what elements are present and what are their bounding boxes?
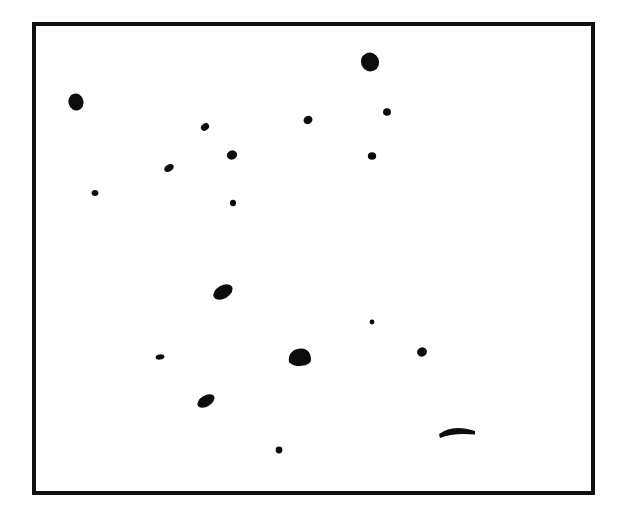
plot-frame xyxy=(32,22,595,495)
figure-root xyxy=(0,0,619,514)
